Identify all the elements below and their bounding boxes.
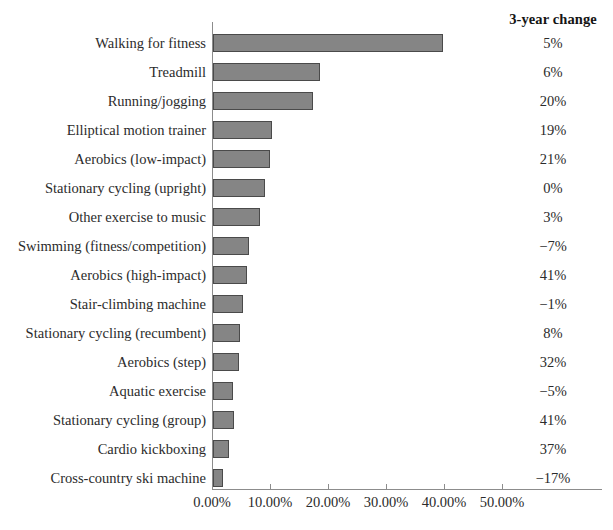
category-label: Cardio kickboxing [98, 440, 206, 458]
chart-row: Swimming (fitness/competition)−7% [0, 232, 613, 261]
change-value: 37% [498, 440, 608, 458]
chart-row: Cross-country ski machine−17% [0, 464, 613, 493]
category-label: Stationary cycling (recumbent) [26, 324, 206, 342]
category-label: Walking for fitness [95, 34, 206, 52]
bar [213, 353, 239, 371]
chart-row: Cardio kickboxing37% [0, 435, 613, 464]
bar [213, 237, 249, 255]
category-label: Aerobics (high-impact) [70, 266, 206, 284]
category-label: Elliptical motion trainer [67, 121, 206, 139]
change-value: 3% [498, 208, 608, 226]
category-label: Aerobics (low-impact) [74, 150, 206, 168]
chart-row: Other exercise to music3% [0, 203, 613, 232]
change-value: 41% [498, 411, 608, 429]
bar [213, 34, 443, 52]
bar [213, 266, 247, 284]
change-value: 5% [498, 34, 608, 52]
x-axis-tick-label: 50.00% [462, 494, 542, 511]
category-label: Aquatic exercise [109, 382, 206, 400]
category-label: Running/jogging [108, 92, 206, 110]
bar [213, 382, 233, 400]
change-value: 19% [498, 121, 608, 139]
bar [213, 295, 243, 313]
change-value: −1% [498, 295, 608, 313]
category-label: Stationary cycling (group) [53, 411, 206, 429]
bar [213, 150, 270, 168]
chart-row: Walking for fitness5% [0, 29, 613, 58]
chart-row: Aerobics (low-impact)21% [0, 145, 613, 174]
chart-row: Treadmill6% [0, 58, 613, 87]
bar [213, 92, 313, 110]
bar [213, 208, 260, 226]
change-value: −5% [498, 382, 608, 400]
change-value: 6% [498, 63, 608, 81]
change-value: 21% [498, 150, 608, 168]
category-label: Cross-country ski machine [51, 469, 206, 487]
chart-row: Running/jogging20% [0, 87, 613, 116]
change-value: 32% [498, 353, 608, 371]
change-value: 8% [498, 324, 608, 342]
bar [213, 469, 223, 487]
chart-row: Aerobics (high-impact)41% [0, 261, 613, 290]
change-value: 41% [498, 266, 608, 284]
chart-row: Aerobics (step)32% [0, 348, 613, 377]
chart-row: Stationary cycling (group)41% [0, 406, 613, 435]
change-value: 0% [498, 179, 608, 197]
chart-row: Elliptical motion trainer19% [0, 116, 613, 145]
category-label: Stationary cycling (upright) [45, 179, 206, 197]
change-value: −17% [498, 469, 608, 487]
bar [213, 324, 240, 342]
category-label: Stair-climbing machine [70, 295, 206, 313]
category-label: Treadmill [149, 63, 206, 81]
change-value: 20% [498, 92, 608, 110]
chart-page: 3-year change 0.00%10.00%20.00%30.00%40.… [0, 0, 613, 530]
chart-row: Aquatic exercise−5% [0, 377, 613, 406]
category-label: Other exercise to music [69, 208, 206, 226]
bar-chart-plot: 0.00%10.00%20.00%30.00%40.00%50.00% Walk… [0, 0, 613, 530]
bar [213, 440, 229, 458]
bar [213, 411, 234, 429]
chart-row: Stationary cycling (recumbent)8% [0, 319, 613, 348]
category-label: Swimming (fitness/competition) [18, 237, 206, 255]
chart-row: Stair-climbing machine−1% [0, 290, 613, 319]
bar [213, 63, 320, 81]
category-label: Aerobics (step) [117, 353, 206, 371]
change-value: −7% [498, 237, 608, 255]
bar [213, 179, 265, 197]
chart-row: Stationary cycling (upright)0% [0, 174, 613, 203]
bar [213, 121, 272, 139]
